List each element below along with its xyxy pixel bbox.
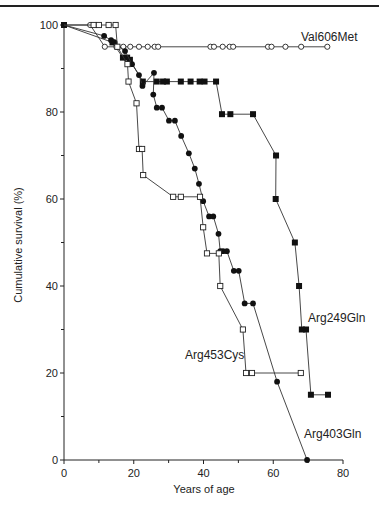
marker-open-square	[249, 370, 254, 375]
marker-filled-circle	[136, 72, 142, 78]
marker-open-circle	[102, 44, 107, 49]
marker-filled-circle	[236, 268, 242, 274]
marker-filled-circle	[242, 301, 248, 307]
marker-filled-circle	[101, 33, 107, 39]
marker-filled-square	[250, 111, 256, 117]
marker-open-circle	[211, 44, 216, 49]
marker-filled-circle	[274, 379, 280, 385]
marker-open-square	[171, 194, 176, 199]
series-arg403gln	[64, 25, 310, 463]
y-tick-label: 60	[46, 193, 58, 205]
marker-filled-circle	[178, 133, 184, 139]
marker-filled-circle	[186, 150, 192, 156]
marker-filled-square	[308, 392, 314, 398]
series-arg249gln	[61, 22, 331, 398]
marker-open-square	[140, 146, 145, 151]
marker-filled-circle	[150, 92, 156, 98]
marker-filled-square	[325, 392, 331, 398]
marker-filled-square	[213, 79, 219, 85]
marker-filled-square	[164, 79, 170, 85]
marker-filled-square	[303, 327, 309, 333]
marker-open-square	[96, 22, 101, 27]
x-tick-label: 0	[61, 467, 67, 479]
marker-open-circle	[269, 44, 274, 49]
marker-open-square	[298, 370, 303, 375]
marker-filled-square	[227, 111, 233, 117]
y-tick-label: 40	[46, 280, 58, 292]
marker-filled-circle	[154, 105, 160, 111]
y-tick-label: 80	[46, 106, 58, 118]
marker-open-square	[178, 194, 183, 199]
marker-open-circle	[145, 44, 150, 49]
x-axis-title: Years of age	[173, 483, 234, 495]
marker-filled-square	[178, 79, 184, 85]
x-tick-label: 60	[267, 467, 279, 479]
marker-open-circle	[136, 44, 141, 49]
marker-filled-circle	[172, 118, 178, 124]
series-arg453cys	[64, 22, 303, 375]
marker-open-square	[197, 194, 202, 199]
marker-filled-circle	[210, 214, 216, 220]
marker-filled-circle	[304, 457, 310, 463]
marker-filled-circle	[192, 166, 198, 172]
marker-open-circle	[156, 44, 161, 49]
y-axis-title: Cumulative survival (%)	[12, 187, 24, 303]
axes: 020406080100020406080	[40, 19, 349, 479]
marker-filled-circle	[196, 181, 202, 187]
x-tick-label: 80	[337, 467, 349, 479]
marker-filled-square	[296, 283, 302, 289]
marker-open-square	[125, 62, 130, 67]
label-val606met: Val606Met	[301, 30, 358, 44]
marker-open-square	[134, 101, 139, 106]
marker-filled-circle	[166, 118, 172, 124]
marker-filled-circle	[122, 48, 128, 54]
y-tick-label: 0	[52, 454, 58, 466]
marker-filled-square	[154, 79, 160, 85]
marker-open-square	[115, 44, 120, 49]
y-tick-label: 20	[46, 367, 58, 379]
series-group	[61, 22, 331, 463]
marker-filled-circle	[140, 83, 146, 89]
marker-open-square	[91, 22, 96, 27]
label-arg403gln: Arg403Gln	[304, 427, 361, 441]
marker-open-circle	[325, 44, 330, 49]
marker-open-square	[240, 327, 245, 332]
marker-open-circle	[283, 44, 288, 49]
marker-open-circle	[128, 44, 133, 49]
marker-open-square	[218, 283, 223, 288]
marker-open-square	[113, 22, 118, 27]
marker-filled-square	[202, 79, 208, 85]
marker-open-square	[201, 225, 206, 230]
survival-chart: 020406080100020406080 Cumulative surviva…	[0, 0, 379, 520]
marker-filled-square	[273, 196, 279, 202]
marker-open-square	[204, 251, 209, 256]
marker-filled-circle	[151, 70, 157, 76]
label-arg249gln: Arg249Gln	[308, 311, 365, 325]
marker-filled-circle	[250, 301, 256, 307]
marker-open-square	[106, 22, 111, 27]
marker-open-square	[126, 79, 131, 84]
marker-filled-square	[188, 79, 194, 85]
marker-filled-square	[219, 111, 225, 117]
label-arg453cys: Arg453Cys	[185, 348, 244, 362]
x-tick-label: 40	[197, 467, 209, 479]
marker-open-circle	[231, 44, 236, 49]
marker-open-square	[216, 251, 221, 256]
x-tick-label: 20	[128, 467, 140, 479]
marker-filled-square	[273, 153, 279, 159]
marker-filled-square	[292, 240, 298, 246]
marker-open-circle	[299, 44, 304, 49]
marker-filled-circle	[216, 231, 222, 237]
marker-open-circle	[220, 44, 225, 49]
marker-filled-circle	[224, 248, 230, 254]
marker-open-square	[243, 370, 248, 375]
y-tick-label: 100	[40, 19, 58, 31]
marker-filled-circle	[159, 105, 165, 111]
marker-open-square	[141, 172, 146, 177]
